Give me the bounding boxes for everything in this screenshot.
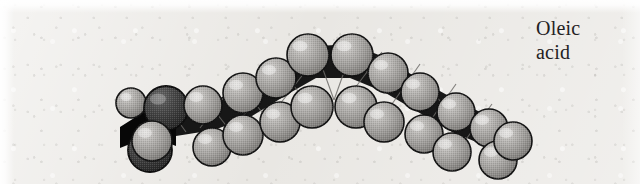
sphere-h-dn-6: [433, 133, 471, 171]
sphere-h-left-upper: [132, 121, 172, 161]
sphere-h-dn-2: [223, 115, 263, 155]
sphere-h-up-6: [437, 93, 475, 131]
sphere-h-dn-apex-left: [291, 86, 333, 128]
sphere-h-apex-right: [331, 34, 373, 76]
caption-line-2: acid: [536, 40, 580, 64]
sphere-h-up-1: [184, 86, 222, 124]
sphere-h-methyl-right: [494, 122, 532, 160]
sphere-h-dn-4: [364, 102, 404, 142]
sphere-h-up-5: [401, 73, 439, 111]
figure-oleic-acid: Oleic acid: [0, 0, 640, 184]
figure-caption: Oleic acid: [536, 16, 580, 65]
sphere-h-apex-left: [287, 34, 329, 76]
atom-spheres: [116, 34, 532, 179]
sphere-h-terminal-left: [116, 88, 146, 118]
caption-line-1: Oleic: [536, 16, 580, 40]
